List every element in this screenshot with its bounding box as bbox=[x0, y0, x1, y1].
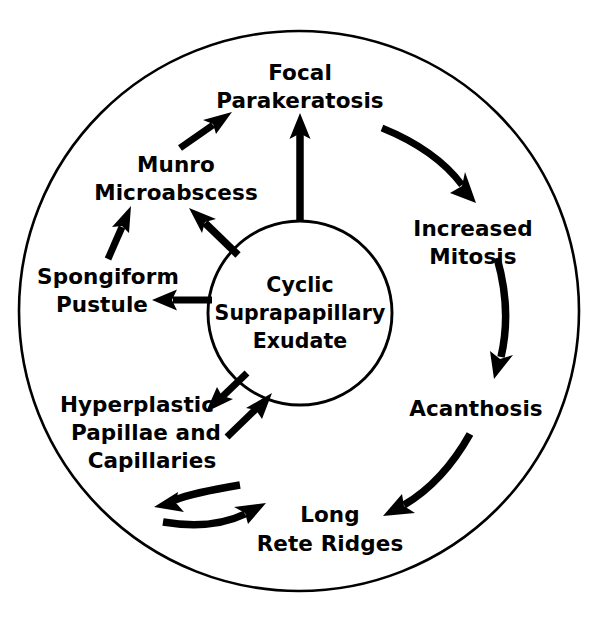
node-long-rete-ridges[interactable]: Long Rete Ridges bbox=[257, 502, 404, 556]
arrow-center-to-munro-microabscess bbox=[189, 208, 238, 255]
node-spongiform-pustule-line2: Pustule bbox=[56, 292, 148, 317]
node-spongiform-pustule[interactable]: Spongiform Pustule bbox=[37, 264, 179, 317]
node-munro-microabscess[interactable]: Munro Microabscess bbox=[94, 152, 258, 205]
node-spongiform-pustule-line1: Spongiform bbox=[37, 264, 179, 289]
arrow-increased-mitosis-to-acanthosis bbox=[490, 258, 513, 379]
node-hyperplastic-papillae-line2: Papillae and bbox=[71, 420, 221, 445]
node-focal-parakeratosis-line1: Focal bbox=[268, 60, 332, 85]
node-acanthosis[interactable]: Acanthosis bbox=[409, 396, 543, 421]
arrow-hyperplastic-papillae-to-center bbox=[227, 393, 272, 437]
arrow-focal-parakeratosis-to-increased-mitosis bbox=[382, 128, 476, 203]
node-increased-mitosis[interactable]: Increased Mitosis bbox=[413, 216, 532, 269]
center-label-line3: Exudate bbox=[253, 329, 348, 353]
node-munro-microabscess-line1: Munro bbox=[137, 152, 215, 177]
arrow-hyperplastic-papillae-to-long-rete-ridges bbox=[154, 485, 240, 512]
node-acanthosis-line1: Acanthosis bbox=[409, 396, 543, 421]
node-center-cyclic-suprapapillary-exudate[interactable]: Cyclic Suprapapillary Exudate bbox=[215, 273, 386, 353]
arrow-munro-microabscess-to-focal-parakeratosis bbox=[180, 112, 232, 148]
node-increased-mitosis-line1: Increased bbox=[413, 216, 532, 241]
node-hyperplastic-papillae-and-capillaries[interactable]: Hyperplastic Papillae and Capillaries bbox=[60, 392, 221, 473]
node-hyperplastic-papillae-line1: Hyperplastic bbox=[60, 392, 214, 417]
node-increased-mitosis-line2: Mitosis bbox=[429, 244, 516, 269]
arrow-acanthosis-to-long-rete-ridges bbox=[383, 434, 470, 516]
center-label-line1: Cyclic bbox=[266, 273, 333, 297]
cycle-diagram-svg: Focal Parakeratosis Increased Mitosis Ac… bbox=[0, 0, 597, 620]
center-label-line2: Suprapapillary bbox=[215, 301, 386, 325]
arrow-center-to-spongiform-pustule bbox=[152, 290, 212, 311]
arrow-spongiform-pustule-to-munro-microabscess bbox=[108, 206, 131, 259]
node-focal-parakeratosis-line2: Parakeratosis bbox=[216, 88, 384, 113]
arrow-center-to-focal-parakeratosis bbox=[290, 113, 311, 222]
cycle-diagram-canvas: Focal Parakeratosis Increased Mitosis Ac… bbox=[0, 0, 597, 620]
node-munro-microabscess-line2: Microabscess bbox=[94, 180, 258, 205]
node-long-rete-ridges-line1: Long bbox=[300, 502, 360, 527]
node-focal-parakeratosis[interactable]: Focal Parakeratosis bbox=[216, 60, 384, 113]
node-long-rete-ridges-line2: Rete Ridges bbox=[257, 531, 404, 556]
node-hyperplastic-papillae-line3: Capillaries bbox=[88, 448, 217, 473]
